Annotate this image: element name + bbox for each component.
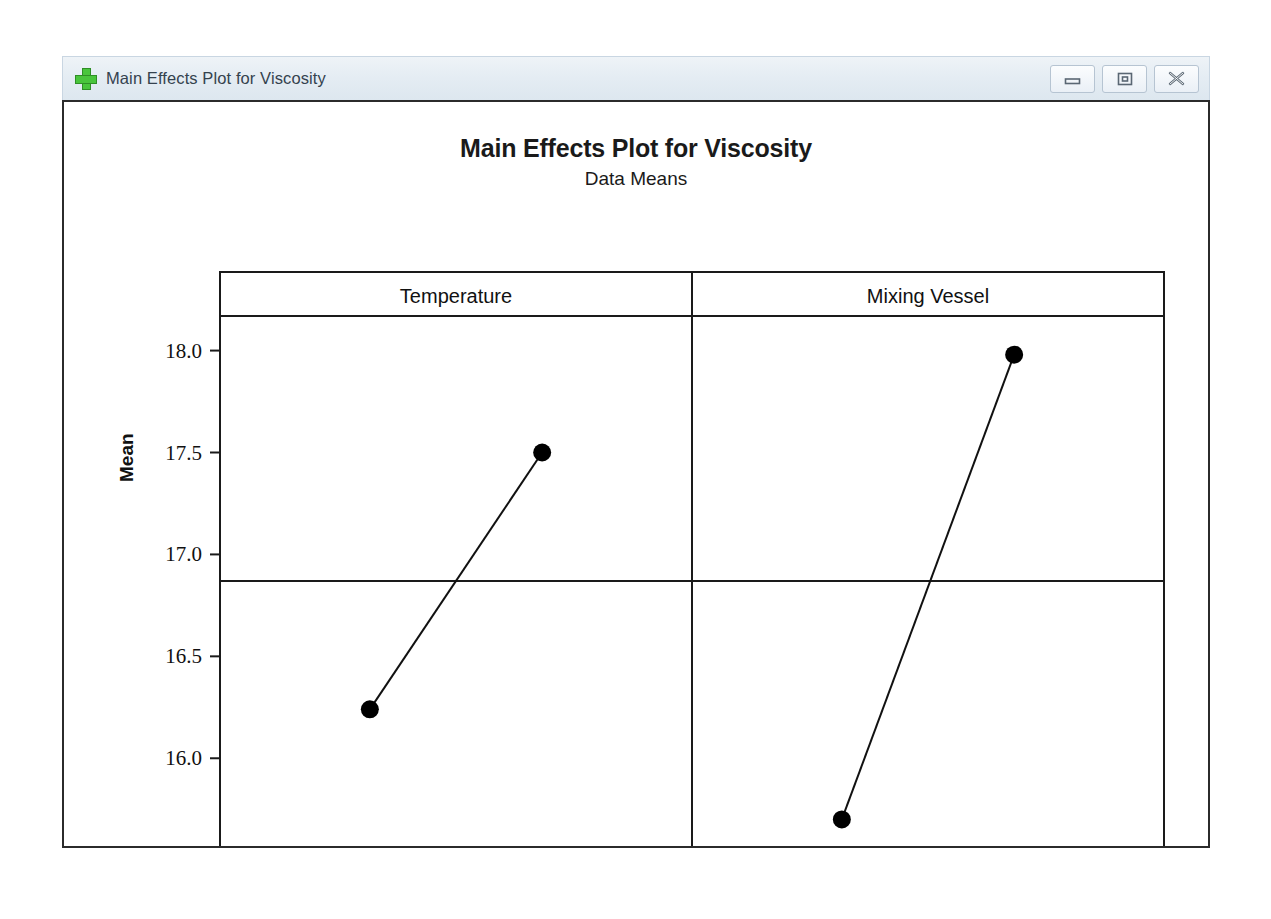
window-controls (1050, 65, 1199, 93)
window-title: Main Effects Plot for Viscosity (106, 69, 326, 88)
panel-header-temperature: Temperature (400, 285, 512, 307)
restore-button[interactable] (1102, 65, 1147, 93)
minimize-button[interactable] (1050, 65, 1095, 93)
restore-icon (1117, 72, 1133, 86)
graph-window: Main Effects Plot for Viscosity (62, 56, 1210, 848)
series-line (842, 355, 1014, 820)
minitab-graph-plus-icon (75, 68, 97, 90)
y-tick-label: 18.0 (165, 339, 202, 363)
data-point-marker (361, 700, 379, 718)
data-point-marker (1005, 346, 1023, 364)
y-tick-label: 17.5 (165, 441, 202, 465)
y-tick-label: 17.0 (165, 542, 202, 566)
graph-canvas: Main Effects Plot for Viscosity Data Mea… (62, 100, 1210, 848)
window-title-bar[interactable]: Main Effects Plot for Viscosity (62, 56, 1210, 100)
data-point-marker (533, 444, 551, 462)
panel-header-mixing-vessel: Mixing Vessel (867, 285, 989, 307)
close-button[interactable] (1154, 65, 1199, 93)
main-effects-plot: Main Effects Plot for Viscosity Data Mea… (64, 102, 1208, 846)
close-icon (1168, 71, 1185, 86)
y-tick-label: 16.5 (165, 644, 202, 668)
y-tick-label: 16.0 (165, 746, 202, 770)
minimize-icon (1064, 73, 1081, 85)
data-point-marker (833, 810, 851, 828)
plot-svg: 16.016.517.017.518.0Temperature-2020Mixi… (64, 102, 1208, 846)
